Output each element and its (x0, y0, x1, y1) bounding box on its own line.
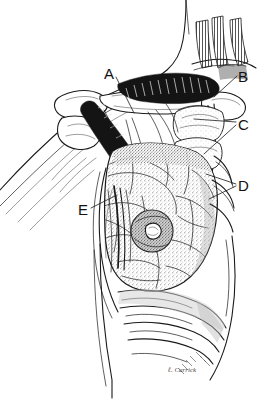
anatomy-illustration: A B C D E ℓ. Carrick (0, 0, 265, 406)
nipple-areola-complex (131, 210, 173, 252)
artist-signature: ℓ. Carrick (167, 366, 197, 374)
label-b: B (238, 68, 248, 85)
label-e: E (78, 201, 88, 218)
anatomy-figure: A B C D E ℓ. Carrick (0, 0, 265, 406)
label-d: D (238, 177, 249, 194)
label-c: C (238, 116, 249, 133)
label-a: A (104, 65, 114, 82)
